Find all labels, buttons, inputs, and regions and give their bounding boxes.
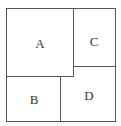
outer-right-edge (115, 8, 116, 122)
outer-top-edge (6, 8, 116, 9)
b-d-divider (60, 76, 61, 122)
region-d-label: D (84, 89, 93, 102)
c-d-divider (73, 66, 116, 67)
outer-bottom-edge (6, 121, 116, 122)
region-c-label: C (90, 35, 99, 48)
region-b-label: B (30, 93, 39, 106)
outer-left-edge (6, 8, 7, 122)
region-a-label: A (35, 37, 44, 50)
a-bottom-edge (6, 76, 74, 77)
